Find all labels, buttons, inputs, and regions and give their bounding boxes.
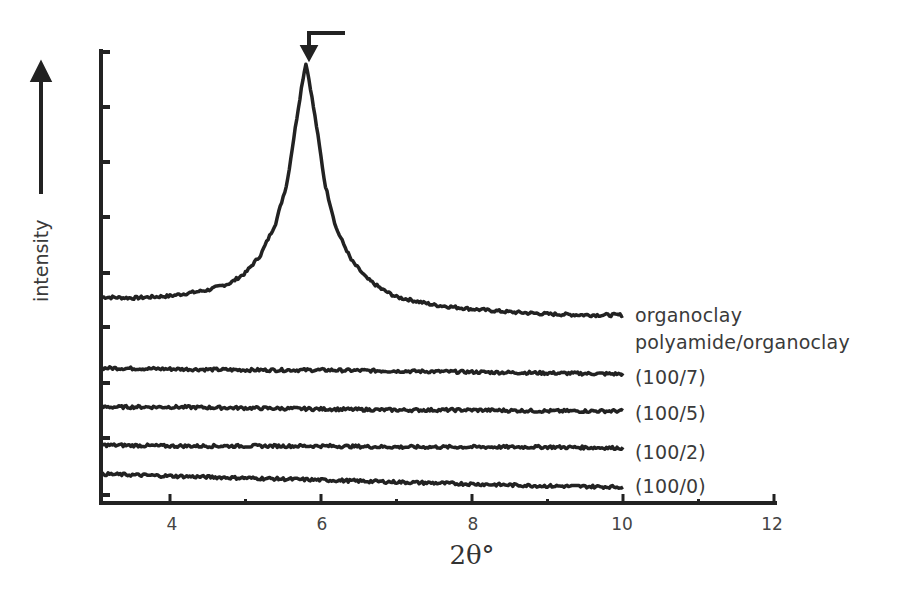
series-line-4	[102, 473, 623, 489]
y-axis-label: intensity	[30, 220, 52, 302]
x-tick-6: 6	[317, 514, 328, 534]
axes	[101, 51, 775, 503]
legend-organoclay: organoclay	[635, 304, 742, 326]
intensity-arrow-icon	[33, 64, 49, 194]
x-tick-10: 10	[611, 514, 633, 534]
peak-arrow-icon	[303, 33, 345, 58]
legend-100-7: (100/7)	[635, 366, 706, 388]
legend-polyamide-organoclay-heading: polyamide/organoclay	[635, 331, 850, 353]
series-line-2	[102, 406, 623, 413]
x-tick-8: 8	[468, 514, 479, 534]
x-tick-12: 12	[761, 514, 783, 534]
series-line-0	[102, 64, 623, 316]
xrd-chart	[0, 0, 915, 591]
series-lines	[102, 64, 623, 488]
x-tick-4: 4	[167, 514, 178, 534]
legend-100-2: (100/2)	[635, 441, 706, 463]
series-line-1	[102, 367, 623, 375]
x-axis-label: 2θ°	[449, 540, 494, 570]
legend-100-5: (100/5)	[635, 402, 706, 424]
series-line-3	[102, 444, 623, 449]
legend-100-0: (100/0)	[635, 475, 706, 497]
